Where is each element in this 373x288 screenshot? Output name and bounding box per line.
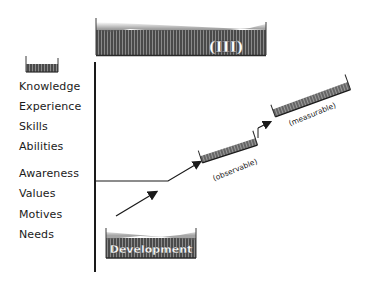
step-connector xyxy=(258,122,270,128)
level-motives: Motives xyxy=(19,208,62,221)
level-abilities: Abilities xyxy=(19,140,63,153)
observable-label: (observable) xyxy=(211,157,258,183)
development-arrow xyxy=(116,192,156,216)
observable-step xyxy=(198,131,258,163)
level-knowledge: Knowledge xyxy=(19,80,80,93)
awareness-line xyxy=(95,162,200,181)
development-label: Development xyxy=(110,243,192,256)
level-needs: Needs xyxy=(19,228,54,241)
level-awareness: Awareness xyxy=(19,167,79,180)
level-skills: Skills xyxy=(19,120,48,133)
diagram-canvas: (III) Development (observable) (measurab… xyxy=(0,0,373,288)
mini-block xyxy=(26,56,58,72)
top-band-label: (III) xyxy=(208,38,243,56)
level-experience: Experience xyxy=(19,100,81,113)
level-values: Values xyxy=(19,187,56,200)
